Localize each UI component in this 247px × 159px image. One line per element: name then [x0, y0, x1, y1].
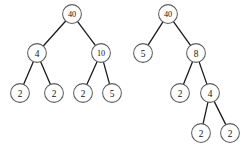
tree-edge — [183, 62, 192, 85]
tree-node[interactable]: 2 — [74, 84, 93, 103]
tree-node[interactable]: 10 — [92, 44, 111, 63]
node-label: 4 — [35, 49, 40, 59]
node-label: 2 — [178, 89, 183, 99]
tree-edge — [148, 22, 163, 45]
node-label: 8 — [194, 49, 199, 59]
tree-node[interactable]: 40 — [159, 5, 178, 24]
node-label: 2 — [199, 129, 204, 139]
tree-node[interactable]: 2 — [171, 84, 190, 103]
tree-node[interactable]: 2 — [221, 124, 240, 143]
edges-layer — [24, 21, 226, 125]
tree-edge — [173, 22, 190, 46]
node-label: 5 — [110, 89, 115, 99]
tree-node[interactable]: 5 — [103, 84, 122, 103]
right-tree-nodes: 40582422 — [134, 5, 240, 143]
right-tree-edges — [148, 22, 226, 125]
tree-edge — [203, 102, 208, 124]
node-label: 2 — [18, 89, 23, 99]
tree-node[interactable]: 8 — [187, 44, 206, 63]
node-label: 10 — [97, 49, 105, 58]
tree-node[interactable]: 4 — [28, 44, 47, 63]
node-label: 5 — [141, 49, 146, 59]
tree-edge — [214, 101, 226, 124]
tree-node[interactable]: 40 — [63, 5, 82, 24]
binary-trees-figure: 40410222540582422 — [0, 0, 247, 159]
node-label: 40 — [164, 10, 172, 19]
tree-node[interactable]: 4 — [201, 84, 220, 103]
nodes-layer: 40410222540582422 — [11, 5, 240, 143]
tree-edge — [41, 62, 51, 85]
node-label: 2 — [52, 89, 57, 99]
tree-edge — [199, 62, 207, 84]
tree-edge — [103, 62, 109, 84]
tree-edge — [87, 62, 97, 85]
tree-node[interactable]: 2 — [45, 84, 64, 103]
node-label: 40 — [68, 10, 76, 19]
node-label: 4 — [208, 89, 213, 99]
tree-edge — [43, 21, 65, 46]
tree-node[interactable]: 2 — [192, 124, 211, 143]
tree-node[interactable]: 2 — [11, 84, 30, 103]
tree-edge — [78, 22, 96, 46]
tree-edge — [24, 62, 34, 85]
node-label: 2 — [228, 129, 233, 139]
trees-canvas: 40410222540582422 — [0, 0, 247, 159]
tree-node[interactable]: 5 — [134, 44, 153, 63]
left-tree-nodes: 404102225 — [11, 5, 122, 103]
node-label: 2 — [81, 89, 86, 99]
